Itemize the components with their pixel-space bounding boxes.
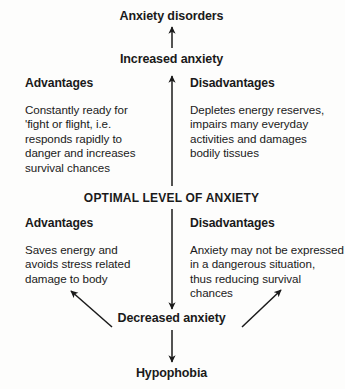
node-optimal-level-of-anxiety: OPTIMAL LEVEL OF ANXIETY <box>0 191 343 205</box>
lower-disadvantages-text: Anxiety may not be expressed in a danger… <box>190 243 345 301</box>
upper-disadvantages-text: Depletes energy reserves, impairs many e… <box>190 103 340 161</box>
upper-advantages-heading: Advantages <box>25 76 93 90</box>
lower-advantages-text: Saves energy and avoids stress related d… <box>25 243 170 286</box>
upper-disadvantages-heading: Disadvantages <box>190 76 275 90</box>
node-decreased-anxiety: Decreased anxiety <box>0 311 343 325</box>
node-increased-anxiety: Increased anxiety <box>0 52 343 66</box>
lower-advantages-heading: Advantages <box>25 216 93 230</box>
upper-advantages-text: Constantly ready for 'fight or flight, i… <box>25 103 170 175</box>
node-hypophobia: Hypophobia <box>0 366 343 380</box>
lower-disadvantages-heading: Disadvantages <box>190 216 275 230</box>
node-anxiety-disorders: Anxiety disorders <box>0 9 343 23</box>
